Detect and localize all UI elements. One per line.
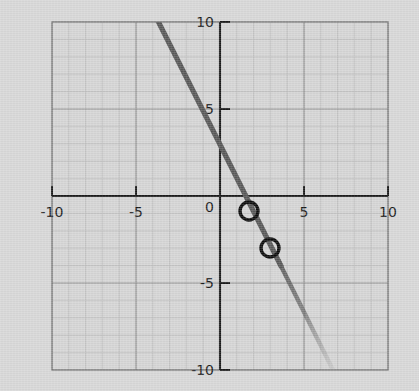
chart-figure: -10 -5 5 10 10 5 -5 -10 0 Coordinate gri…	[0, 0, 419, 391]
coordinate-plane-chart: -10 -5 5 10 10 5 -5 -10 0	[0, 0, 419, 391]
origin-label: 0	[205, 199, 214, 215]
y-tick-label: -5	[200, 275, 214, 291]
y-tick-label: -10	[191, 362, 214, 378]
y-tick-label: 10	[196, 14, 214, 30]
x-tick-label: -5	[129, 204, 143, 220]
x-tick-label: 5	[300, 204, 309, 220]
x-tick-label: -10	[41, 204, 64, 220]
x-tick-label: 10	[379, 204, 397, 220]
